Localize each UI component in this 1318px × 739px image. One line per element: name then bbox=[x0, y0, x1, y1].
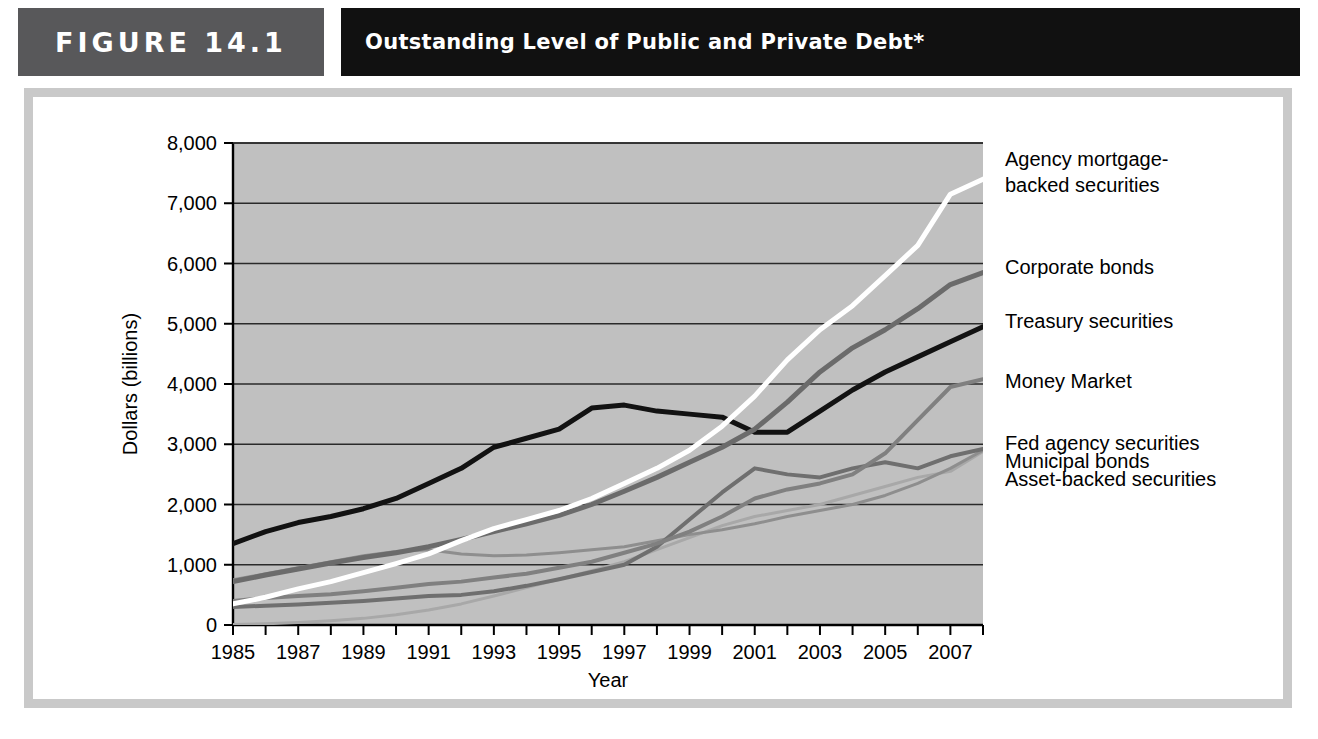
figure-panel: 01,0002,0003,0004,0005,0006,0007,0008,00… bbox=[24, 88, 1292, 708]
figure-root: FIGURE 14.1 Outstanding Level of Public … bbox=[0, 0, 1318, 739]
chart-container: 01,0002,0003,0004,0005,0006,0007,0008,00… bbox=[33, 97, 1301, 717]
figure-header: FIGURE 14.1 Outstanding Level of Public … bbox=[18, 8, 1300, 76]
x-axis-title: Year bbox=[588, 669, 629, 691]
legend-label: Corporate bonds bbox=[1005, 256, 1154, 278]
figure-title: Outstanding Level of Public and Private … bbox=[341, 8, 1300, 76]
x-tick-label: 1997 bbox=[602, 641, 647, 663]
x-tick-label: 2005 bbox=[863, 641, 908, 663]
legend-label: Money Market bbox=[1005, 370, 1132, 392]
y-tick-label: 7,000 bbox=[167, 192, 217, 214]
x-tick-label: 1991 bbox=[406, 641, 451, 663]
y-tick-label: 0 bbox=[206, 614, 217, 636]
x-tick-label: 2003 bbox=[798, 641, 843, 663]
y-tick-label: 8,000 bbox=[167, 132, 217, 154]
legend-label: Treasury securities bbox=[1005, 310, 1173, 332]
x-tick-label: 1993 bbox=[472, 641, 517, 663]
y-tick-label: 2,000 bbox=[167, 494, 217, 516]
x-tick-label: 1999 bbox=[667, 641, 712, 663]
x-tick-label: 1987 bbox=[276, 641, 321, 663]
legend-label: backed securities bbox=[1005, 174, 1160, 196]
x-tick-label: 1985 bbox=[211, 641, 256, 663]
line-chart: 01,0002,0003,0004,0005,0006,0007,0008,00… bbox=[33, 97, 1283, 699]
legend-label: Agency mortgage- bbox=[1005, 148, 1168, 170]
figure-number-badge: FIGURE 14.1 bbox=[18, 8, 324, 76]
legend-label: Asset-backed securities bbox=[1005, 468, 1216, 490]
x-tick-label: 1995 bbox=[537, 641, 582, 663]
y-axis-title: Dollars (billions) bbox=[119, 313, 141, 455]
x-tick-label: 2001 bbox=[732, 641, 777, 663]
y-tick-label: 5,000 bbox=[167, 313, 217, 335]
y-tick-label: 3,000 bbox=[167, 433, 217, 455]
x-tick-label: 1989 bbox=[341, 641, 386, 663]
y-tick-label: 4,000 bbox=[167, 373, 217, 395]
x-tick-label: 2007 bbox=[928, 641, 973, 663]
y-tick-label: 1,000 bbox=[167, 554, 217, 576]
y-tick-label: 6,000 bbox=[167, 253, 217, 275]
